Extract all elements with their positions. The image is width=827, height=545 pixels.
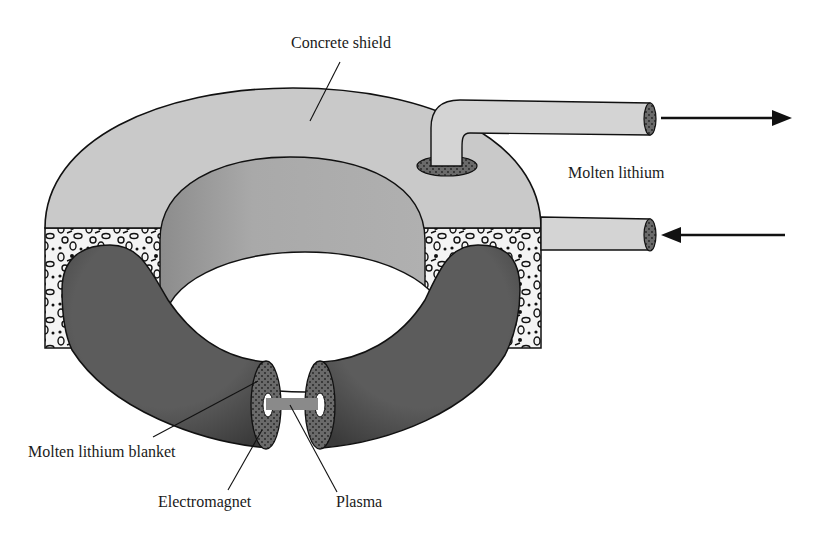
label-molten-lithium: Molten lithium	[568, 164, 665, 181]
inlet-pipe	[541, 217, 656, 251]
fusion-reactor-diagram: Concrete shield Molten lithium Molten li…	[0, 0, 827, 545]
outflow-arrow	[661, 110, 792, 126]
label-molten-lithium-blanket: Molten lithium blanket	[28, 443, 176, 460]
label-concrete-shield: Concrete shield	[291, 34, 391, 51]
inflow-arrow	[661, 227, 785, 243]
label-electromagnet: Electromagnet	[158, 493, 252, 511]
label-plasma: Plasma	[336, 493, 382, 510]
